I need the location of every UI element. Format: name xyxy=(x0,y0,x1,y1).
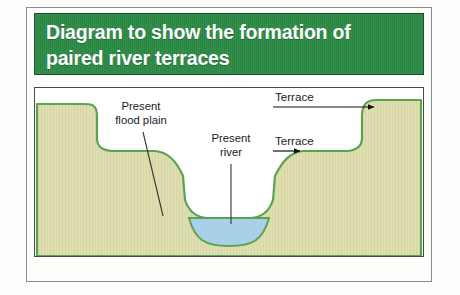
title-banner: Diagram to show the formation of paired … xyxy=(34,13,424,75)
river-label-line2: river xyxy=(220,146,242,158)
flood-plain-label-line1: Present xyxy=(122,100,162,112)
terrace-upper-label: Terrace xyxy=(275,90,314,103)
flood-plain-label-line2: flood plain xyxy=(115,114,167,126)
terrace-lower-label: Terrace xyxy=(275,134,314,147)
figure-root: Diagram to show the formation of paired … xyxy=(0,0,460,295)
river-label-line1: Present xyxy=(212,132,252,144)
river-terrace-cross-section: Present flood plain Present river Terrac… xyxy=(35,88,423,256)
diagram-panel: Present flood plain Present river Terrac… xyxy=(34,87,424,257)
page-title: Diagram to show the formation of paired … xyxy=(35,14,423,71)
